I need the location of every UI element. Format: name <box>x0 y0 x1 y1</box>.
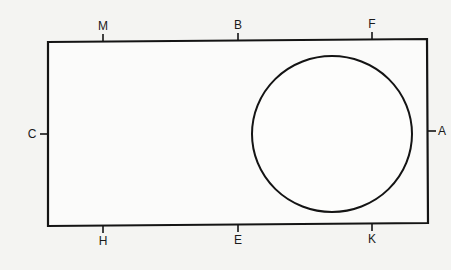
circle-shape <box>252 56 412 212</box>
label-m: M <box>96 20 110 32</box>
label-k: K <box>365 233 379 245</box>
label-f: F <box>365 18 379 30</box>
diagram-drawing <box>0 0 451 270</box>
diagram-canvas: M B F C A H E K <box>0 0 451 270</box>
label-c: C <box>25 128 39 140</box>
label-b: B <box>231 19 245 31</box>
label-e: E <box>231 234 245 246</box>
label-h: H <box>96 235 110 247</box>
label-a: A <box>435 125 449 137</box>
